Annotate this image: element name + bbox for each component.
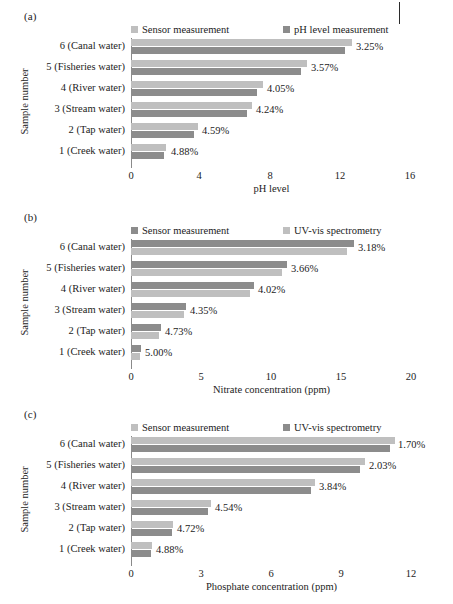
- x-tick: 10: [266, 371, 277, 382]
- bar-sensor: [131, 345, 141, 352]
- bar-reference: [131, 311, 184, 318]
- bar-sensor: [131, 60, 307, 67]
- bar-reference: [131, 529, 172, 536]
- bar-value-label: 4.35%: [190, 305, 217, 316]
- category-label: 4 (River water): [61, 283, 125, 294]
- bar-value-label: 1.70%: [398, 439, 425, 450]
- bar-sensor: [131, 39, 352, 46]
- x-tick: 20: [406, 371, 417, 382]
- bar-value-label: 4.24%: [256, 104, 283, 115]
- category-label: 6 (Canal water): [60, 40, 125, 51]
- bar-row: 4 (River water) 4.02%: [131, 281, 412, 302]
- bar-value-label: 4.02%: [258, 284, 285, 295]
- bar-value-label: 3.66%: [291, 263, 318, 274]
- bar-reference: [131, 248, 347, 255]
- bar-row: 2 (Tap water) 4.59%: [131, 122, 412, 143]
- bar-row: 3 (Stream water) 4.24%: [131, 101, 412, 122]
- bar-sensor: [131, 102, 252, 109]
- x-tick: 9: [338, 568, 343, 579]
- bar-value-label: 4.72%: [177, 523, 204, 534]
- bar-row: 2 (Tap water) 4.73%: [131, 323, 412, 344]
- bar-reference: [131, 353, 140, 360]
- bar-sensor: [131, 303, 186, 310]
- bar-reference: [131, 68, 301, 75]
- bar-value-label: 4.88%: [171, 146, 198, 157]
- bar-value-label: 2.03%: [369, 460, 396, 471]
- legend-swatch-sensor: [131, 227, 138, 234]
- bar-reference: [131, 47, 345, 54]
- bar-sensor: [131, 542, 152, 549]
- panel-b-plot-area: 6 (Canal water) 3.18% 5 (Fisheries water…: [131, 239, 412, 365]
- x-tick: 8: [267, 170, 272, 181]
- category-label: 4 (River water): [61, 480, 125, 491]
- panel-c-y-axis-title: Sample number: [19, 452, 30, 548]
- legend-item-uvvis: UV-vis spectrometry: [283, 225, 381, 236]
- legend-item-uvvis: UV-vis spectrometry: [283, 422, 381, 433]
- bar-row: 6 (Canal water) 3.18%: [131, 239, 412, 260]
- panel-a-x-axis-title: pH level: [131, 183, 412, 194]
- category-label: 6 (Canal water): [60, 241, 125, 252]
- x-tick: 12: [335, 170, 346, 181]
- x-tick: 12: [406, 568, 417, 579]
- bar-sensor: [131, 261, 287, 268]
- category-label: 2 (Tap water): [69, 522, 125, 533]
- legend-swatch-sensor: [131, 26, 138, 33]
- panel-b-x-axis: 0 5 10 15 20 Nitrate concentration (ppm): [131, 369, 412, 395]
- bar-row: 1 (Creek water) 5.00%: [131, 344, 412, 365]
- panel-b-tag: (b): [24, 211, 37, 223]
- bar-sensor: [131, 123, 198, 130]
- legend-label-uvvis: UV-vis spectrometry: [294, 422, 381, 433]
- panel-a: (a) Sensor measurement pH level measurem…: [0, 0, 453, 205]
- panel-c-x-axis-title: Phosphate concentration (ppm): [131, 581, 412, 592]
- bar-row: 4 (River water) 4.05%: [131, 80, 412, 101]
- panel-c-x-axis: 0 3 6 9 12 Phosphate concentration (ppm): [131, 566, 412, 592]
- panel-a-y-axis-title: Sample number: [19, 54, 30, 150]
- panel-c-tag: (c): [24, 408, 37, 420]
- bar-value-label: 3.18%: [358, 242, 385, 253]
- bar-row: 3 (Stream water) 4.35%: [131, 302, 412, 323]
- legend-label-ph: pH level measurement: [294, 24, 388, 35]
- bar-reference: [131, 89, 257, 96]
- legend-label-sensor: Sensor measurement: [142, 422, 229, 433]
- panel-a-tag: (a): [24, 10, 37, 22]
- bar-reference: [131, 131, 194, 138]
- bar-row: 3 (Stream water) 4.54%: [131, 499, 412, 520]
- bar-value-label: 5.00%: [145, 347, 172, 358]
- bar-row: 1 (Creek water) 4.88%: [131, 541, 412, 562]
- bar-row: 2 (Tap water) 4.72%: [131, 520, 412, 541]
- panel-b: (b) Sensor measurement UV-vis spectromet…: [0, 205, 453, 402]
- category-label: 3 (Stream water): [54, 304, 125, 315]
- legend-swatch-sensor: [131, 424, 138, 431]
- bar-row: 5 (Fisheries water) 3.66%: [131, 260, 412, 281]
- bar-reference: [131, 508, 208, 515]
- bar-reference: [131, 466, 360, 473]
- category-label: 1 (Creek water): [59, 145, 125, 156]
- bar-sensor: [131, 521, 173, 528]
- bar-row: 6 (Canal water) 1.70%: [131, 436, 412, 457]
- x-tick: 4: [196, 170, 201, 181]
- panel-b-legend: Sensor measurement UV-vis spectrometry: [131, 223, 431, 237]
- bar-sensor: [131, 81, 263, 88]
- category-label: 3 (Stream water): [54, 103, 125, 114]
- legend-label-sensor: Sensor measurement: [142, 225, 229, 236]
- category-label: 6 (Canal water): [60, 438, 125, 449]
- x-tick: 16: [405, 170, 416, 181]
- legend-swatch-uvvis: [283, 424, 290, 431]
- bar-value-label: 4.88%: [156, 544, 183, 555]
- legend-item-ph: pH level measurement: [283, 24, 388, 35]
- x-tick: 0: [128, 568, 133, 579]
- bar-reference: [131, 332, 159, 339]
- category-label: 1 (Creek water): [59, 346, 125, 357]
- bar-sensor: [131, 479, 315, 486]
- panel-b-y-axis-title: Sample number: [19, 255, 30, 351]
- legend-label-sensor: Sensor measurement: [142, 24, 229, 35]
- bar-reference: [131, 152, 164, 159]
- category-label: 1 (Creek water): [59, 543, 125, 554]
- bar-value-label: 4.05%: [267, 83, 294, 94]
- x-tick: 15: [336, 371, 347, 382]
- bar-row: 5 (Fisheries water) 3.57%: [131, 59, 412, 80]
- bar-row: 4 (River water) 3.84%: [131, 478, 412, 499]
- panel-a-plot-area: 6 (Canal water) 3.25% 5 (Fisheries water…: [131, 38, 412, 164]
- category-label: 4 (River water): [61, 82, 125, 93]
- figure-page: (a) Sensor measurement pH level measurem…: [0, 0, 453, 604]
